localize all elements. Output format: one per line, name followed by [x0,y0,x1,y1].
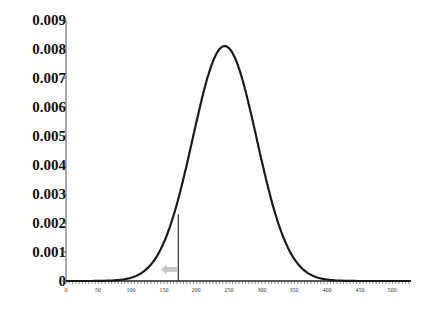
arrow-left-icon [161,264,167,274]
density-curve [66,46,411,281]
plot-area [0,0,426,312]
arrow-shaft [166,267,177,272]
